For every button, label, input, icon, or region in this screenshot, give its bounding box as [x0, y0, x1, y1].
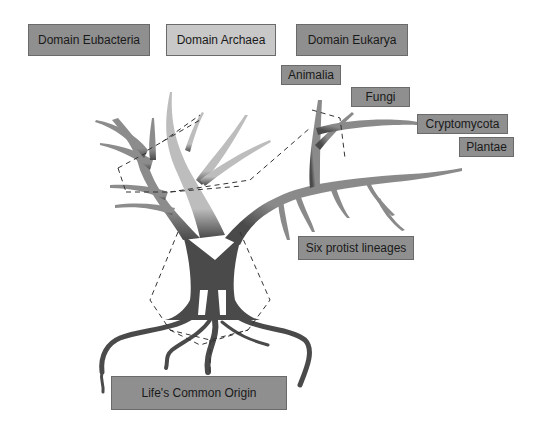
tree-of-life-diagram: Domain Eubacteria Domain Archaea Domain … — [0, 0, 542, 433]
animalia-label: Animalia — [281, 65, 341, 85]
domain-eubacteria-text: Domain Eubacteria — [38, 33, 140, 47]
protist-lineages-label: Six protist lineages — [298, 236, 414, 260]
domain-eukarya-label: Domain Eukarya — [296, 24, 408, 56]
trunk — [165, 235, 260, 320]
domain-eubacteria-label: Domain Eubacteria — [28, 24, 150, 56]
common-origin-label: Life's Common Origin — [111, 376, 287, 410]
tree-graphic — [0, 0, 542, 433]
cryptomycota-label: Cryptomycota — [417, 114, 508, 134]
domain-eukarya-text: Domain Eukarya — [308, 33, 397, 47]
plantae-label: Plantae — [459, 137, 514, 157]
fungi-label: Fungi — [351, 87, 410, 107]
domain-archaea-text: Domain Archaea — [177, 33, 266, 47]
domain-archaea-label: Domain Archaea — [166, 24, 276, 56]
